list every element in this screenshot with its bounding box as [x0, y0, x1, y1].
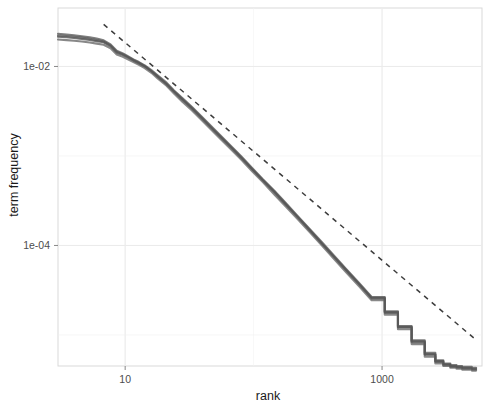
y-axis-title: term frequency	[7, 133, 21, 217]
x-tick-label: 10	[119, 373, 131, 385]
chart-container: 1010001e-021e-04 rank term frequency	[0, 0, 498, 406]
y-tick-label: 1e-02	[23, 60, 50, 72]
x-tick-label: 1000	[370, 373, 394, 385]
y-tick-label: 1e-04	[23, 239, 50, 251]
zipf-law-log-log-chart: 1010001e-021e-04 rank term frequency	[0, 0, 498, 406]
x-axis-title: rank	[256, 389, 281, 403]
